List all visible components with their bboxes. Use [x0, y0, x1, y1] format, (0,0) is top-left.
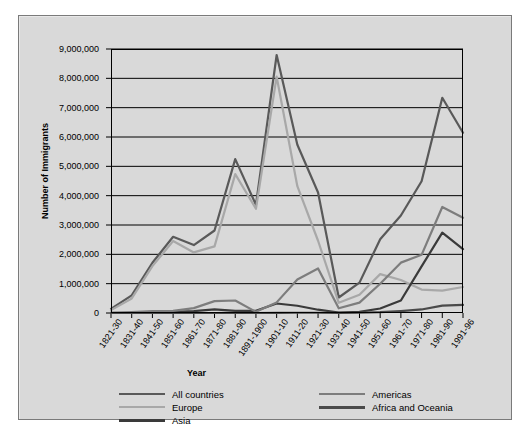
- y-tick-label: 5,000,000: [59, 161, 99, 171]
- y-tick-label: 0: [94, 308, 99, 318]
- plot-frame: [111, 49, 463, 313]
- legend-item[interactable]: Africa and Oceania: [319, 401, 453, 413]
- legend-item[interactable]: Americas: [319, 388, 453, 400]
- legend-label: Americas: [372, 389, 412, 400]
- y-axis-title: Number of Immigrants: [40, 111, 50, 231]
- x-axis-title: Year: [187, 368, 206, 378]
- y-axis-tick-labels: 01,000,0002,000,0003,000,0004,000,0005,0…: [19, 49, 105, 313]
- y-tick-label: 1,000,000: [59, 279, 99, 289]
- y-tick-label: 3,000,000: [59, 220, 99, 230]
- legend-swatch: [119, 406, 165, 408]
- chart-figure: 01,000,0002,000,0003,000,0004,000,0005,0…: [18, 15, 512, 420]
- y-tick-label: 7,000,000: [59, 103, 99, 113]
- legend-item[interactable]: Asia: [119, 414, 224, 426]
- y-tick-label: 6,000,000: [59, 132, 99, 142]
- legend-label: Asia: [172, 415, 190, 426]
- legend-label: All countries: [172, 389, 224, 400]
- legend-swatch: [319, 406, 365, 409]
- y-tick-label: 9,000,000: [59, 44, 99, 54]
- y-tick-label: 4,000,000: [59, 191, 99, 201]
- legend-item[interactable]: Europe: [119, 401, 224, 413]
- y-tick-label: 2,000,000: [59, 249, 99, 259]
- legend-label: Africa and Oceania: [372, 402, 453, 413]
- legend-item[interactable]: All countries: [119, 388, 224, 400]
- legend-swatch: [319, 393, 365, 395]
- x-axis-tick-labels: 1821-301831-401841-501851-601861-701871-…: [111, 315, 463, 367]
- plot-area-wrapper: [111, 49, 463, 313]
- y-tick-label: 8,000,000: [59, 73, 99, 83]
- legend-column-right: AmericasAfrica and Oceania: [319, 388, 453, 414]
- legend-column-left: All countriesEuropeAsia: [119, 388, 224, 427]
- legend-label: Europe: [172, 402, 203, 413]
- chart-legend: All countriesEuropeAsia AmericasAfrica a…: [119, 388, 499, 424]
- legend-swatch: [119, 419, 165, 422]
- legend-swatch: [119, 393, 165, 395]
